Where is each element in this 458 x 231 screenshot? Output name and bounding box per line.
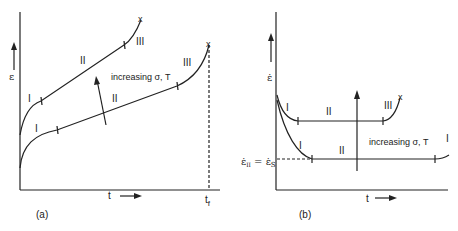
panel-b-upper-rupture: x: [398, 92, 403, 102]
arrowhead-icon: [134, 193, 142, 199]
panel-a-upper-stage3: III: [136, 36, 144, 47]
panel-a-lower-curve: [20, 45, 209, 168]
panel-b-upper-curve: [277, 95, 400, 121]
panel-b-x-label: t: [366, 193, 369, 204]
creep-curves-figure: ε t tf (a) increasing σ, T I II III x I …: [0, 0, 458, 231]
panel-b-lower-stage3: I: [446, 133, 449, 144]
panel-b-upper-stage2: II: [326, 106, 332, 117]
panel-b-upper-stage1: I: [286, 102, 289, 113]
panel-b-lower-stage2: II: [339, 145, 345, 156]
tick: [177, 82, 178, 90]
tick: [41, 97, 42, 105]
panel-a-upper-stage1: I: [28, 93, 31, 104]
panel-a-y-label: ε: [9, 71, 14, 82]
panel-b-caption: (b): [299, 209, 311, 220]
panel-a-upper-stage2: II: [80, 55, 86, 66]
panel-a-lower-stage2: II: [112, 93, 118, 104]
panel-a-lower-stage1: I: [35, 123, 38, 134]
arrowhead-icon: [94, 76, 100, 85]
panel-a-annotation: increasing σ, T: [111, 72, 171, 82]
panel-b-lower-stage1: I: [299, 140, 302, 151]
arrowhead-icon: [268, 33, 274, 41]
panel-b-upper-stage3: III: [384, 100, 392, 111]
arrowhead-icon: [389, 195, 397, 201]
panel-a-caption: (a): [36, 209, 48, 220]
tf-label: tf: [205, 194, 211, 208]
tick: [124, 41, 125, 49]
panel-b-lower-curve: [277, 100, 449, 159]
panel-a-lower-rupture: x: [206, 39, 211, 49]
arrowhead-icon: [11, 42, 17, 50]
panel-a-lower-stage3: III: [183, 57, 191, 68]
panel-b-y-label: ε̇: [267, 72, 272, 83]
tick: [57, 126, 58, 134]
panel-a-increasing-arrow: [97, 80, 106, 125]
arrowhead-icon: [354, 90, 360, 99]
steady-state-label: ε̇II = ε̇S: [241, 156, 276, 169]
panel-a-upper-rupture: x: [138, 14, 143, 24]
panel-a-x-label: t: [108, 190, 111, 201]
panel-b-annotation: increasing σ, T: [369, 137, 429, 147]
